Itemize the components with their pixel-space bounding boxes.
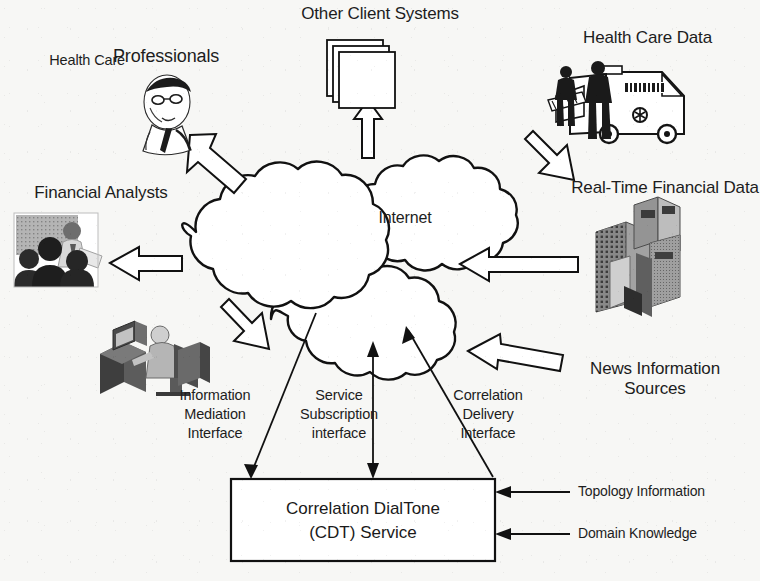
arrow-to-information-mediation-user [221,299,269,349]
label-correlation-delivery-interface: Correlation Delivery Interface [430,386,546,443]
analysts-photo-icon [14,213,102,287]
ambulance-icon [548,61,684,143]
label-other-client-systems: Other Client Systems [280,4,480,24]
arrow-from-health-care-data [525,131,574,180]
cloud-puff-left [182,162,389,309]
label-topology-information: Topology Information [578,483,758,500]
label-health-care-professionals-main: Professionals [113,46,243,67]
arrow-to-financial-analysts [110,247,182,280]
doctor-portrait-icon [143,75,191,155]
arrowhead-imi-down [244,464,258,479]
label-internet-cloud: Internet [350,209,460,228]
label-news-information-sources: News Information Sources [560,359,750,400]
label-service-subscription-interface: Service Subscription interface [283,386,395,443]
label-domain-knowledge: Domain Knowledge [578,525,758,542]
label-financial-analysts: Financial Analysts [6,183,196,203]
label-correlation-dialtone-service: Correlation DialTone (CDT) Service [232,497,494,545]
label-health-care-professionals-prefix: Health Care [20,52,125,69]
arrowhead-domain-knowledge [495,528,511,540]
service-input-arrows [502,492,570,534]
label-health-care-data: Health Care Data [555,28,740,48]
desktop-user-icon [100,321,210,396]
label-real-time-financial-data: Real-Time Financial Data [570,178,760,198]
stacked-windows-icon [327,40,395,108]
arrow-from-news-information-sources [468,334,563,371]
label-information-mediation-interface: Information Mediation Interface [160,386,270,443]
arrowhead-ssi-down [367,463,379,479]
service-input-arrowheads [495,486,511,540]
office-buildings-icon [596,197,680,317]
arrowhead-topology-information [495,486,511,498]
